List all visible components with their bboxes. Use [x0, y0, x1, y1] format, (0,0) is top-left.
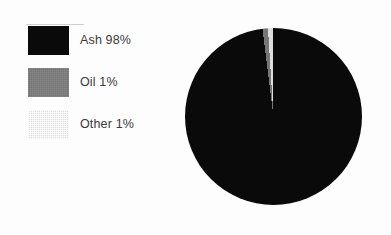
pie-chart-circle [185, 28, 362, 205]
scan-artifact-line [26, 24, 84, 25]
pie-chart-area [185, 28, 362, 205]
legend-item-ash: Ash 98% [28, 26, 168, 55]
legend-label-oil: Oil 1% [80, 68, 118, 97]
legend-swatch-ash [28, 26, 69, 55]
pie-chart-figure: Ash 98% Oil 1% Other 1% [0, 0, 391, 235]
legend-item-other: Other 1% [28, 110, 168, 139]
legend-label-other: Other 1% [80, 110, 134, 139]
legend-swatch-other [28, 110, 69, 139]
legend-item-oil: Oil 1% [28, 68, 168, 97]
legend-label-ash: Ash 98% [80, 26, 131, 55]
chart-legend: Ash 98% Oil 1% Other 1% [28, 26, 168, 139]
legend-swatch-oil [28, 68, 69, 97]
